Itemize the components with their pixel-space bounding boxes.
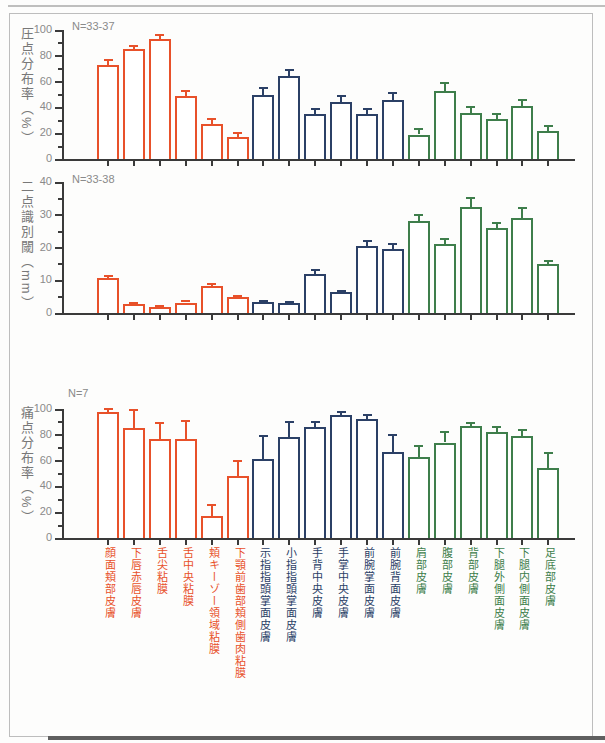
category-label-9: 手背中央皮膚 (308, 547, 322, 619)
category-label-18: 足底部皮膚 (541, 547, 555, 607)
category-label-12: 前腕背面皮膚 (386, 547, 400, 619)
category-label-7: 示指指頭掌面皮膚 (256, 547, 270, 643)
category-label-6: 下顎前歯部頬側歯肉粘膜 (231, 547, 245, 679)
category-label-16: 下腿外側面皮膚 (490, 547, 504, 631)
category-labels-layer: 顔面頬部皮膚下唇赤唇皮膚舌尖粘膜舌中央粘膜頬キーゾー領域粘膜下顎前歯部頬側歯肉粘… (0, 0, 605, 743)
category-label-13: 肩部皮膚 (412, 547, 426, 595)
category-label-11: 前腕掌面皮膚 (360, 547, 374, 619)
category-label-1: 顔面頬部皮膚 (101, 547, 115, 619)
category-label-17: 下腿内側面皮膚 (515, 547, 529, 631)
category-label-2: 下唇赤唇皮膚 (127, 547, 141, 619)
category-label-10: 手掌中央皮膚 (334, 547, 348, 619)
category-label-8: 小指指頭掌面皮膚 (282, 547, 296, 643)
category-label-5: 頬キーゾー領域粘膜 (205, 547, 219, 655)
category-label-15: 背部皮膚 (464, 547, 478, 595)
scanned-figure-page: 圧点分布率（%） N=33-37 二点識別閾（mm） N=33-38 痛点分布率… (0, 0, 605, 743)
category-label-14: 腹部皮膚 (438, 547, 452, 595)
category-label-4: 舌中央粘膜 (179, 547, 193, 607)
category-label-3: 舌尖粘膜 (153, 547, 167, 595)
